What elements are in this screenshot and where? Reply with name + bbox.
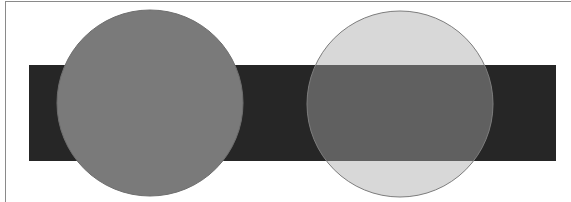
opaque-circle bbox=[57, 10, 243, 196]
transparent-circle bbox=[307, 11, 493, 197]
shapes-svg bbox=[0, 0, 571, 202]
diagram-canvas bbox=[0, 0, 571, 202]
